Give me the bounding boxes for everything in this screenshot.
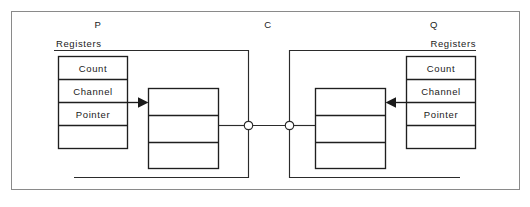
- label-producer-register-count: Count: [79, 63, 107, 74]
- consumer-buffer: [316, 89, 386, 169]
- consumer-pointer-arrow: [386, 97, 407, 108]
- label-node-consumer: Q: [430, 19, 438, 30]
- label-node-channel: C: [264, 19, 271, 30]
- label-producer-register-channel: Channel: [73, 86, 113, 97]
- label-producer-registers: Registers: [56, 38, 102, 49]
- label-consumer-register-count: Count: [427, 63, 455, 74]
- label-consumer-registers: Registers: [430, 38, 476, 49]
- label-producer-register-pointer: Pointer: [76, 109, 110, 120]
- producer-pointer-arrow: [128, 97, 149, 108]
- channel-port-right-dot: [285, 121, 293, 129]
- label-consumer-register-channel: Channel: [421, 86, 461, 97]
- diagram-canvas: P C Q Registers Registers Count Channel …: [0, 0, 530, 207]
- producer-buffer: [149, 89, 219, 169]
- label-node-producer: P: [95, 19, 102, 30]
- channel-port-left-dot: [244, 121, 252, 129]
- channel-link: [244, 121, 293, 129]
- diagram-svg: P C Q Registers Registers Count Channel …: [0, 0, 530, 207]
- label-consumer-register-pointer: Pointer: [424, 109, 458, 120]
